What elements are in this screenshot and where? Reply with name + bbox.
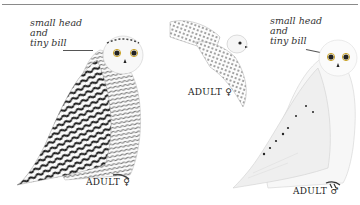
caption-text: ADULT bbox=[86, 177, 120, 187]
female-symbol-icon: ♀ bbox=[123, 177, 130, 187]
caption-text: ADULT bbox=[293, 186, 327, 196]
caption-adult-female-perched: ADULT ♀ bbox=[86, 177, 130, 187]
top-rule bbox=[2, 4, 358, 5]
caption-adult-female-flight: ADULT ♀ bbox=[188, 87, 232, 97]
owl-male-perched-illustration bbox=[228, 28, 358, 193]
male-symbol-icon: ♂ bbox=[330, 186, 338, 196]
caption-adult-male-perched: ADULT ♂ bbox=[293, 186, 339, 196]
owl-female-perched-illustration bbox=[5, 15, 155, 190]
caption-text: ADULT bbox=[188, 87, 222, 97]
